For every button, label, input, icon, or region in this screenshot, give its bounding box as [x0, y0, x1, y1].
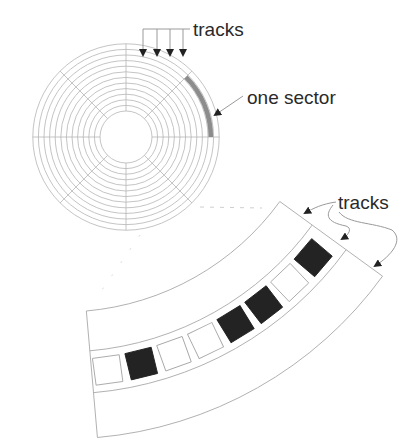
sector-filled: [245, 286, 283, 324]
sector-divider: [60, 155, 108, 203]
sector-divider: [60, 71, 108, 119]
sector-empty: [188, 323, 224, 359]
tracks-label-right: tracks: [338, 192, 389, 213]
arrow-icon: [339, 212, 397, 266]
sector-callout: one sector: [215, 87, 336, 115]
one-sector-label: one sector: [247, 87, 336, 108]
sector-filled: [125, 347, 158, 380]
disk-tracks-diagram: tracks one sector tracks: [0, 0, 409, 442]
sector-empty: [157, 336, 192, 371]
sector-divider: [144, 155, 192, 203]
sector-empty: [271, 263, 309, 301]
sector-empty: [92, 355, 122, 385]
disk-platter: [33, 44, 219, 230]
sector-filled: [217, 306, 254, 343]
track-ring: [100, 111, 152, 163]
sector-filled: [294, 239, 332, 277]
diagram-canvas: tracks one sector tracks: [0, 0, 409, 442]
arrow-icon: [215, 96, 243, 115]
tracks-label-top: tracks: [193, 19, 244, 40]
